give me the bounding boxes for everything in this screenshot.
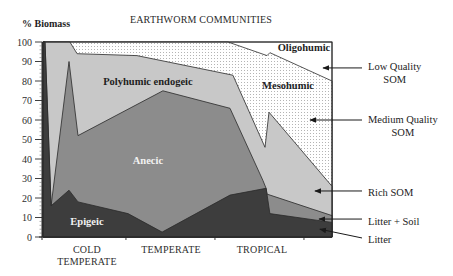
- x-category-label: TEMPERATE: [141, 244, 201, 255]
- area-label-mesohumic: Mesohumic: [262, 80, 314, 91]
- x-category-label: COLD: [73, 244, 101, 255]
- y-tick-label: 50: [22, 134, 32, 145]
- x-category-label: TEMPERATE: [57, 256, 117, 267]
- annotation-label: Rich SOM: [368, 187, 414, 198]
- y-tick-label: 0: [27, 232, 32, 243]
- y-tick-label: 90: [22, 56, 32, 67]
- y-tick-label: 10: [22, 212, 32, 223]
- earthworm-communities-chart: EARTHWORM COMMUNITIES % Biomass EpigeicA…: [0, 0, 453, 276]
- y-tick-label: 30: [22, 173, 32, 184]
- annotation-label-line2: SOM: [383, 74, 406, 85]
- y-tick-label: 20: [22, 193, 32, 204]
- annotation-label: Litter + Soil: [368, 216, 420, 227]
- annotation-label: Litter: [368, 234, 392, 245]
- area-label-oligohumic: Oligohumic: [278, 42, 331, 53]
- chart-title: EARTHWORM COMMUNITIES: [130, 14, 272, 25]
- y-tick-label: 70: [22, 95, 32, 106]
- annotation-label: Medium Quality: [368, 114, 438, 125]
- y-axis-label: % Biomass: [22, 18, 70, 29]
- area-label-epigeic: Epigeic: [70, 216, 104, 227]
- area-label-anecic: Anecic: [133, 155, 164, 166]
- stacked-areas: [43, 42, 332, 237]
- area-label-polyhumic-endogeic: Polyhumic endogeic: [103, 76, 193, 87]
- annotation-label: Low Quality: [368, 61, 422, 72]
- annotation-label-line2: SOM: [391, 127, 414, 138]
- x-category-label: TROPICAL: [237, 244, 288, 255]
- y-tick-label: 40: [22, 154, 32, 165]
- y-tick-label: 60: [22, 115, 32, 126]
- y-tick-label: 80: [22, 76, 32, 87]
- y-tick-label: 100: [17, 37, 32, 48]
